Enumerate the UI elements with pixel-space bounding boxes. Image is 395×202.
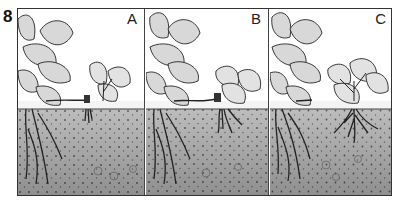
panel-a: A: [18, 9, 144, 195]
panel-label-b: B: [251, 11, 261, 27]
figure-number: 8: [3, 8, 12, 25]
panel-c: C: [270, 9, 392, 195]
panel-b-illustration: [146, 9, 268, 195]
panel-b: B: [146, 9, 268, 195]
panel-a-illustration: [18, 9, 144, 195]
panel-label-a: A: [127, 11, 137, 27]
figure-frame: A: [17, 8, 392, 196]
panel-c-illustration: [270, 9, 392, 195]
panel-label-c: C: [375, 11, 386, 27]
